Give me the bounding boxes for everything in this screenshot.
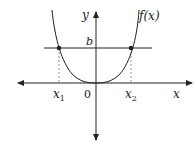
level-label-b: b [86, 35, 93, 48]
x-axis-label: x [173, 87, 180, 101]
x2-label: x2 [125, 87, 137, 103]
function-label: f(x) [138, 9, 160, 23]
intersection-point-x2 [129, 46, 134, 51]
y-axis-label: y [81, 8, 89, 22]
function-graph: y f(x) b x 0 x1 x2 [0, 0, 196, 151]
x1-label: x1 [53, 87, 65, 103]
intersection-point-x1 [57, 46, 62, 51]
origin-label: 0 [84, 88, 91, 101]
